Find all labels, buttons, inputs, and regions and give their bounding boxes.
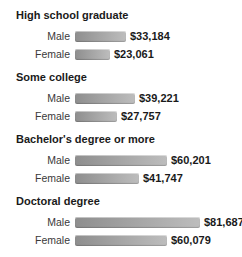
- female-bar: [75, 235, 167, 246]
- chart-section-bachelors-degree-or-more: Bachelor's degree or more Male $60,201 F…: [16, 133, 242, 187]
- bar-row: Female $23,061: [16, 45, 242, 63]
- series-label-male: Male: [16, 92, 75, 104]
- male-bar: [75, 217, 200, 228]
- male-bar: [75, 93, 135, 104]
- male-bar: [75, 155, 167, 166]
- series-label-male: Male: [16, 154, 75, 166]
- chart-section-doctoral-degree: Doctoral degree Male $81,687 Female $60,…: [16, 195, 242, 249]
- female-bar: [75, 111, 117, 122]
- female-value-label: $41,747: [143, 172, 183, 184]
- male-value-label: $81,687: [204, 216, 242, 228]
- bar-row: Female $41,747: [16, 169, 242, 187]
- female-bar: [75, 173, 139, 184]
- bar-row: Male $60,201: [16, 151, 242, 169]
- chart-section-high-school-graduate: High school graduate Male $33,184 Female…: [16, 9, 242, 63]
- male-bar: [75, 31, 126, 42]
- bar-chart: High school graduate Male $33,184 Female…: [0, 0, 242, 257]
- series-label-female: Female: [16, 110, 75, 122]
- category-heading: Some college: [16, 71, 242, 84]
- category-heading: High school graduate: [16, 9, 242, 22]
- male-value-label: $39,221: [139, 92, 179, 104]
- female-bar: [75, 49, 110, 60]
- female-value-label: $60,079: [171, 234, 211, 246]
- series-label-male: Male: [16, 30, 75, 42]
- category-heading: Bachelor's degree or more: [16, 133, 242, 146]
- chart-section-some-college: Some college Male $39,221 Female $27,757: [16, 71, 242, 125]
- series-label-female: Female: [16, 48, 75, 60]
- category-heading: Doctoral degree: [16, 195, 242, 208]
- male-value-label: $33,184: [130, 30, 170, 42]
- bar-row: Male $33,184: [16, 27, 242, 45]
- male-value-label: $60,201: [171, 154, 211, 166]
- series-label-female: Female: [16, 172, 75, 184]
- series-label-male: Male: [16, 216, 75, 228]
- bar-row: Female $27,757: [16, 107, 242, 125]
- bar-row: Male $39,221: [16, 89, 242, 107]
- bar-row: Female $60,079: [16, 231, 242, 249]
- female-value-label: $23,061: [114, 48, 154, 60]
- female-value-label: $27,757: [121, 110, 161, 122]
- series-label-female: Female: [16, 234, 75, 246]
- bar-row: Male $81,687: [16, 213, 242, 231]
